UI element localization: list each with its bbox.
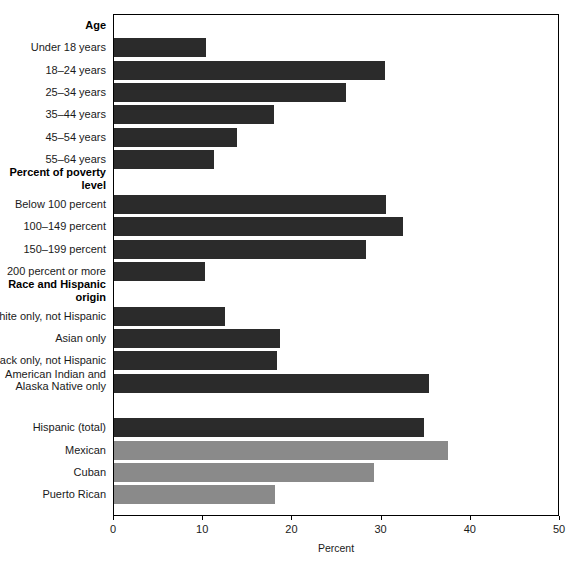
bar-category-label: Asian only [0, 333, 106, 344]
x-tick-mark [202, 516, 203, 520]
bar-row: 150–199 percent [0, 239, 579, 261]
bar-row: Cuban [0, 462, 579, 484]
bar-row: Hispanic (total) [0, 417, 579, 439]
bar [114, 374, 429, 393]
bar-category-label: 45–54 years [0, 132, 106, 143]
bar-category-label: 150–199 percent [0, 244, 106, 255]
bar [114, 441, 448, 460]
bar-row: Under 18 years [0, 37, 579, 59]
spacer-row [0, 395, 579, 417]
bar-category-label: Puerto Rican [0, 489, 106, 500]
x-tick-label: 0 [93, 523, 133, 535]
bar-category-label: Hispanic (total) [0, 422, 106, 433]
x-tick-mark [470, 516, 471, 520]
bar [114, 418, 424, 437]
x-tick-mark [291, 516, 292, 520]
bar [114, 463, 374, 482]
bar [114, 195, 386, 214]
group-heading-label: Percent of poverty level [0, 166, 106, 191]
group-heading-row: Race and Hispanic origin [0, 283, 579, 305]
bar-row: Asian only [0, 328, 579, 350]
bar [114, 329, 280, 348]
bar-row: Puerto Rican [0, 484, 579, 506]
x-tick-label: 50 [539, 523, 579, 535]
bar-row: 100–149 percent [0, 216, 579, 238]
bar [114, 83, 346, 102]
bar-row: 18–24 years [0, 60, 579, 82]
group-heading-label: Race and Hispanic origin [0, 278, 106, 303]
bar-category-label: American Indian and Alaska Native only [0, 368, 106, 393]
bar-category-label: Below 100 percent [0, 199, 106, 210]
x-tick-mark [559, 516, 560, 520]
bar-category-label: 100–149 percent [0, 221, 106, 232]
bar-category-label: White only, not Hispanic [0, 311, 106, 322]
x-tick-mark [381, 516, 382, 520]
bar [114, 105, 274, 124]
x-tick-label: 20 [271, 523, 311, 535]
bar-category-label: Black only, not Hispanic [0, 355, 106, 366]
bar-chart-figure: AgeUnder 18 years18–24 years25–34 years3… [0, 0, 579, 570]
bar [114, 150, 214, 169]
bar-category-label: 18–24 years [0, 65, 106, 76]
x-tick-label: 30 [361, 523, 401, 535]
bar-row: 35–44 years [0, 104, 579, 126]
bar [114, 307, 225, 326]
bar [114, 351, 277, 370]
bar-row: Mexican [0, 440, 579, 462]
bar-category-label: Under 18 years [0, 42, 106, 53]
bar [114, 485, 275, 504]
bar-category-label: 200 percent or more [0, 266, 106, 277]
bar [114, 217, 403, 236]
bar [114, 128, 237, 147]
x-axis-title: Percent [113, 542, 559, 554]
x-axis: 01020304050 Percent [0, 516, 579, 570]
x-tick-mark [113, 516, 114, 520]
bar-row: 45–54 years [0, 127, 579, 149]
bar-row: White only, not Hispanic [0, 306, 579, 328]
bar-category-label: 35–44 years [0, 109, 106, 120]
bar [114, 61, 385, 80]
bar-row: American Indian and Alaska Native only [0, 373, 579, 395]
bar-category-label: 25–34 years [0, 87, 106, 98]
x-tick-label: 10 [182, 523, 222, 535]
bar [114, 240, 366, 259]
group-heading-row: Age [0, 15, 579, 37]
bar-category-label: Cuban [0, 467, 106, 478]
bar [114, 38, 206, 57]
bar-row: Below 100 percent [0, 194, 579, 216]
group-heading-label: Age [0, 20, 106, 31]
x-tick-label: 40 [450, 523, 490, 535]
bar-category-label: 55–64 years [0, 154, 106, 165]
bar-category-label: Mexican [0, 445, 106, 456]
group-heading-row: Percent of poverty level [0, 171, 579, 193]
bar-row: 25–34 years [0, 82, 579, 104]
bar [114, 262, 205, 281]
